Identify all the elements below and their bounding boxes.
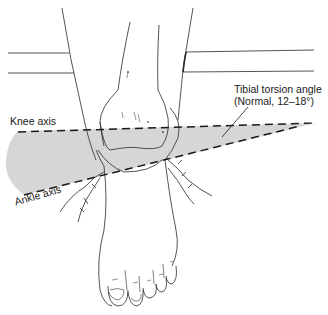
knee-axis-label: Knee axis	[10, 115, 56, 127]
table-edge-lines	[8, 50, 314, 73]
tibial-torsion-angle-label: Tibial torsion angle	[234, 83, 322, 95]
normal-range-label: (Normal, 12–18°)	[234, 95, 314, 107]
foot-outline	[99, 160, 178, 306]
tibial-torsion-diagram	[0, 0, 328, 315]
